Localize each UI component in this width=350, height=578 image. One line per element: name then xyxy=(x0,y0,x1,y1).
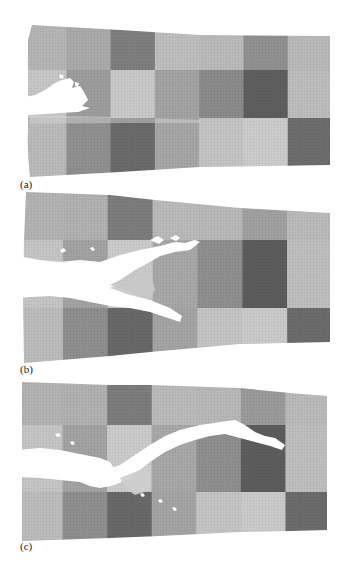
panel-a-image xyxy=(0,0,350,185)
panel-label-c: (c) xyxy=(20,540,32,552)
panel-b-image xyxy=(0,180,350,370)
figure: (a) (b) (c) xyxy=(0,0,350,578)
panel-c-image xyxy=(0,370,350,550)
